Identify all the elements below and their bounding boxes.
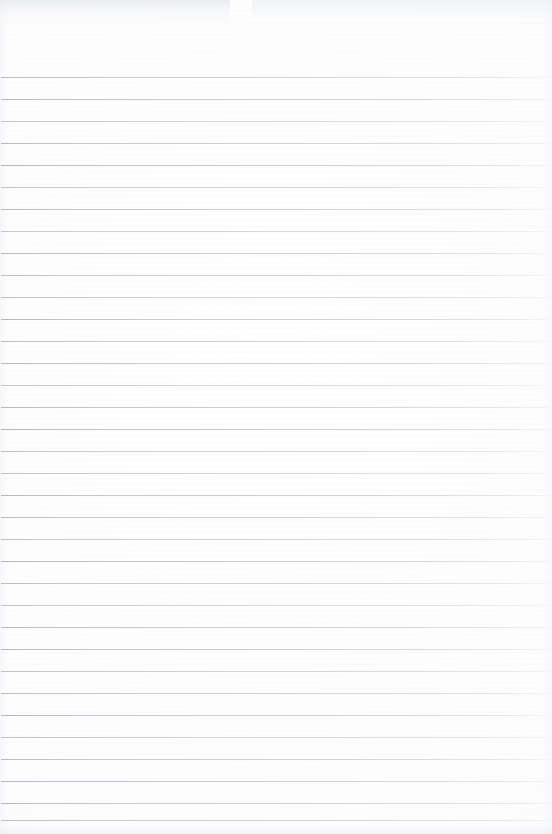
writing-area[interactable] bbox=[1, 77, 549, 821]
notepad-page bbox=[0, 0, 552, 834]
